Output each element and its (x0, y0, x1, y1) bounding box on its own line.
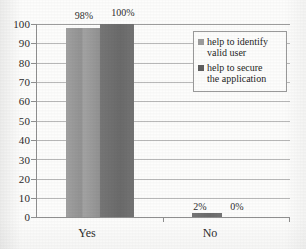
legend-item-identify-valid-user[interactable]: help to identifyvalid user (198, 36, 283, 58)
legend-item-secure-application[interactable]: help to securethe application (198, 62, 283, 84)
legend-label-series2: help to securethe application (207, 62, 266, 84)
y-axis-label-0: 0 (2, 212, 30, 223)
bar-yes-secure-application[interactable] (100, 24, 134, 217)
legend-swatch-icon-series2 (198, 65, 204, 71)
y-axis-label-100: 100 (2, 19, 30, 30)
y-axis-labels: 100 90 80 70 60 50 40 30 20 10 0 (0, 0, 30, 249)
y-axis-label-40: 40 (2, 135, 30, 146)
data-label-no-series1: 2% (185, 201, 215, 212)
data-label-no-series2: 0% (222, 201, 252, 212)
x-tick-separator (163, 217, 164, 222)
y-tick-0 (31, 217, 36, 218)
y-axis-label-90: 90 (2, 38, 30, 49)
x-axis-label-no: No (185, 227, 235, 240)
bar-chart: 100 90 80 70 60 50 40 30 20 10 0 (0, 0, 306, 249)
y-axis-label-60: 60 (2, 96, 30, 107)
legend-swatch-icon-series1 (198, 39, 204, 45)
y-axis-label-20: 20 (2, 174, 30, 185)
bar-yes-identify-valid-user[interactable] (66, 28, 100, 217)
legend-label-series2-line2: the application (207, 73, 266, 84)
y-axis-label-30: 30 (2, 155, 30, 166)
legend-label-series1: help to identifyvalid user (207, 36, 268, 58)
legend-label-series2-line1: help to secure (207, 62, 263, 73)
x-tick-end (289, 217, 290, 222)
y-axis-label-10: 10 (2, 193, 30, 204)
y-axis-label-70: 70 (2, 77, 30, 88)
legend: help to identifyvalid user help to secur… (193, 31, 287, 92)
x-axis-label-yes: Yes (55, 227, 119, 240)
y-axis-label-80: 80 (2, 58, 30, 69)
y-axis-label-50: 50 (2, 116, 30, 127)
data-label-yes-series2: 100% (100, 7, 146, 18)
legend-label-series1-line1: help to identify (207, 36, 268, 47)
bar-no-identify-valid-user[interactable] (192, 213, 222, 217)
legend-label-series1-line2: valid user (207, 47, 246, 58)
data-label-yes-series1: 98% (64, 10, 104, 21)
